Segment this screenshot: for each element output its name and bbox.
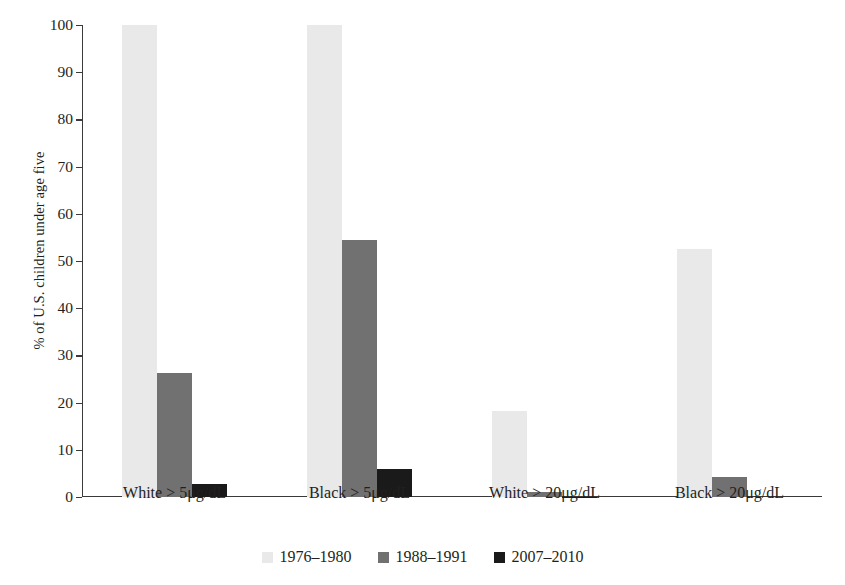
legend-item[interactable]: 1976–1980 [262,548,352,566]
legend-label: 2007–2010 [512,548,584,566]
legend: 1976–19801988–19912007–2010 [0,548,845,566]
bar-slot [712,25,747,497]
legend-item[interactable]: 1988–1991 [378,548,468,566]
y-axis-tick-label: 70 [58,158,74,176]
bar-slot [492,25,527,497]
plot-area: 0102030405060708090100 [82,25,822,497]
bar-slot [377,25,412,497]
bar[interactable] [122,25,157,497]
bar-chart: % of U.S. children under age five 010203… [0,0,845,585]
legend-swatch-icon [494,552,505,563]
y-axis-tick-label: 100 [50,16,73,34]
bar-slot [342,25,377,497]
y-axis-title: % of U.S. children under age five [31,86,48,416]
bar-group [307,25,412,497]
y-axis-tick-label: 30 [58,346,74,364]
bar-slot [677,25,712,497]
x-axis-category-label: White > 5μg/dL [82,484,267,502]
x-axis-category-label: Black > 20μg/dL [637,484,822,502]
y-axis-tick-label: 40 [58,299,74,317]
legend-swatch-icon [262,552,273,563]
y-axis-tick-label: 50 [58,252,74,270]
bar-slot [527,25,562,497]
x-axis-category-label: White > 20μg/dL [452,484,637,502]
y-axis-tick-label: 80 [58,110,74,128]
bar-group [492,25,597,497]
bar-slot [562,25,597,497]
x-axis-category-label: Black > 5μg/dL [267,484,452,502]
bar-group [677,25,782,497]
bar-groups [82,25,822,497]
y-axis-tick-label: 60 [58,205,74,223]
legend-label: 1976–1980 [280,548,352,566]
bar-slot [157,25,192,497]
bar-slot [747,25,782,497]
bar-slot [122,25,157,497]
bar-group [122,25,227,497]
y-axis-tick-label: 90 [58,63,74,81]
legend-swatch-icon [378,552,389,563]
legend-label: 1988–1991 [396,548,468,566]
bar[interactable] [342,240,377,497]
legend-item[interactable]: 2007–2010 [494,548,584,566]
y-axis-tick-label: 20 [58,394,74,412]
bar-slot [192,25,227,497]
bar-slot [307,25,342,497]
bar[interactable] [307,25,342,497]
y-axis-tick-label: 10 [58,441,74,459]
bar[interactable] [157,373,192,497]
y-axis-tick-label: 0 [65,488,73,506]
bar[interactable] [677,249,712,497]
